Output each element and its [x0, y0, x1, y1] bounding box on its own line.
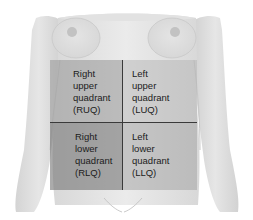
- right-nipple: [170, 27, 180, 37]
- quadrant-ruq-label: Right upper quadrant (RUQ): [73, 68, 111, 116]
- vertical-divider-line: [122, 60, 123, 190]
- quadrant-luq-label: Left upper quadrant (LUQ): [132, 68, 170, 116]
- abdominal-quadrants-figure: Right upper quadrant (RUQ) Left upper qu…: [0, 0, 253, 220]
- left-nipple: [67, 27, 77, 37]
- quadrant-ruq: Right upper quadrant (RUQ): [50, 60, 123, 123]
- horizontal-divider-line: [50, 122, 197, 123]
- quadrant-rlq-label: Right lower quadrant (RLQ): [75, 131, 113, 179]
- quadrant-llq: Left lower quadrant (LLQ): [123, 123, 197, 190]
- quadrant-luq: Left upper quadrant (LUQ): [123, 60, 197, 123]
- left-breast: [52, 18, 100, 58]
- quadrant-llq-label: Left lower quadrant (LLQ): [132, 131, 170, 179]
- right-breast: [148, 18, 196, 58]
- quadrant-rlq: Right lower quadrant (RLQ): [50, 123, 123, 190]
